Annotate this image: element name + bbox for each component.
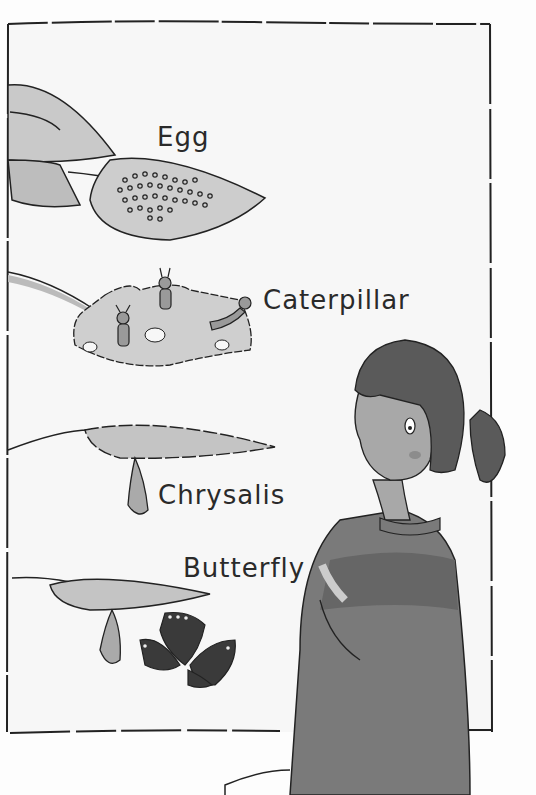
illustration: Egg Caterpillar Chrysalis Butterfly [0, 0, 536, 795]
stage-label-egg: Egg [157, 122, 209, 152]
stage-label-caterpillar: Caterpillar [263, 285, 410, 315]
illustration-artwork [0, 0, 536, 795]
stage-label-butterfly: Butterfly [183, 553, 305, 583]
stage-label-chrysalis: Chrysalis [158, 480, 285, 510]
floor-line [225, 770, 290, 795]
